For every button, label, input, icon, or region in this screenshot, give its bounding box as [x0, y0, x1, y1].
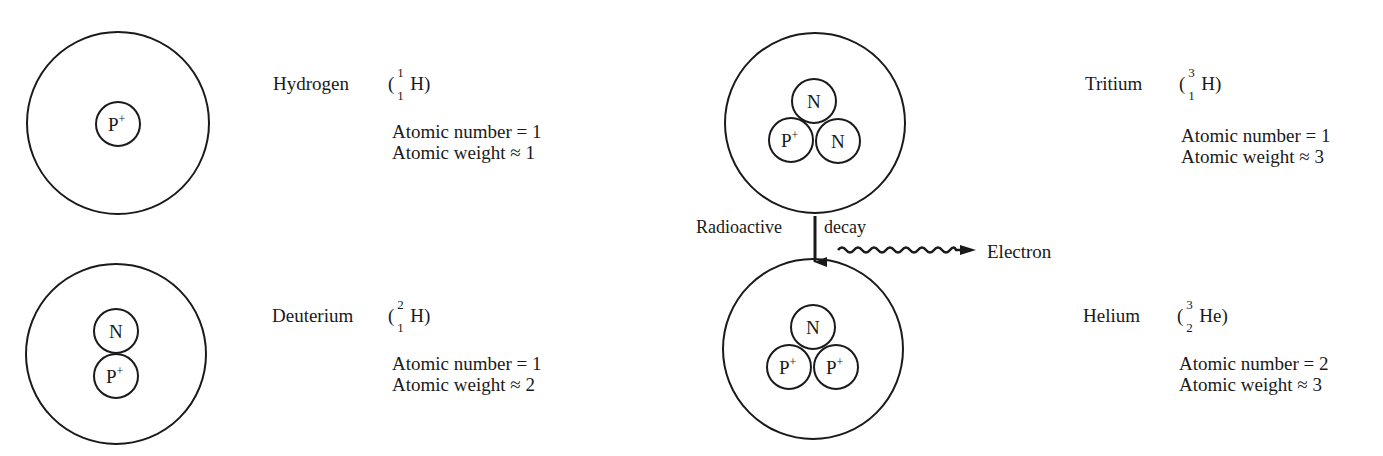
atomic-number-line: Atomic number = 1 — [1181, 125, 1331, 146]
proton: P+ — [96, 102, 140, 146]
paren-close: ) — [424, 306, 430, 325]
tritium-atom: N P+ N — [725, 33, 905, 213]
deuterium-name: Deuterium — [272, 306, 353, 325]
proton: P+ — [769, 118, 813, 162]
atomic-number-subscript: 2 — [1186, 321, 1193, 334]
tritium-name: Tritium — [1085, 74, 1142, 93]
neutron: N — [816, 119, 860, 163]
neutron-label: N — [831, 131, 845, 152]
atomic-weight-line: Atomic weight ≈ 3 — [1179, 374, 1329, 395]
proton-label: P+ — [781, 128, 799, 151]
helium-isotope-notation: (32He) — [1177, 300, 1228, 330]
atomic-weight-line: Atomic weight ≈ 1 — [392, 142, 542, 163]
atom-diagram: P+ N P+ N P+ N — [0, 0, 1383, 456]
hydrogen-atom: P+ — [27, 32, 209, 214]
element-symbol: H — [1201, 74, 1215, 93]
nuclide-numbers: 21 — [397, 300, 408, 330]
hydrogen-properties: Atomic number = 1 Atomic weight ≈ 1 — [392, 121, 542, 163]
mass-number: 3 — [1188, 66, 1195, 79]
nuclide-numbers: 31 — [1188, 68, 1199, 98]
helium-name: Helium — [1083, 306, 1140, 325]
proton-label: P+ — [108, 112, 126, 135]
atomic-number-subscript: 1 — [1188, 89, 1195, 102]
arrowhead-icon — [960, 245, 976, 255]
atomic-number-line: Atomic number = 2 — [1179, 353, 1329, 374]
paren-open: ( — [388, 306, 394, 325]
radioactive-label: Radioactive — [696, 218, 782, 236]
paren-open: ( — [1177, 306, 1183, 325]
atomic-weight-line: Atomic weight ≈ 3 — [1181, 146, 1331, 167]
neutron: N — [791, 305, 835, 349]
atomic-number-line: Atomic number = 1 — [392, 353, 542, 374]
paren-open: ( — [388, 74, 394, 93]
decay-label: decay — [824, 218, 866, 236]
hydrogen-isotope-notation: (11H) — [388, 68, 430, 98]
nuclide-numbers: 11 — [397, 68, 408, 98]
neutron-label: N — [806, 317, 820, 338]
paren-close: ) — [1221, 306, 1227, 325]
element-symbol: H — [410, 306, 424, 325]
deuterium-atom: N P+ — [26, 264, 206, 444]
proton: P+ — [94, 354, 138, 398]
hydrogen-name: Hydrogen — [273, 74, 349, 93]
atomic-weight-line: Atomic weight ≈ 2 — [392, 374, 542, 395]
mass-number: 3 — [1186, 298, 1193, 311]
element-symbol: H — [410, 74, 424, 93]
paren-close: ) — [424, 74, 430, 93]
electron-emission-wave — [838, 245, 976, 255]
neutron-label: N — [109, 321, 123, 342]
atomic-number-subscript: 1 — [397, 89, 404, 102]
paren-open: ( — [1179, 74, 1185, 93]
helium-atom: N P+ P+ — [723, 259, 903, 439]
atomic-number-subscript: 1 — [397, 321, 404, 334]
proton-label: P+ — [106, 364, 124, 387]
tritium-isotope-notation: (31H) — [1179, 68, 1221, 98]
proton: P+ — [814, 345, 858, 389]
tritium-properties: Atomic number = 1 Atomic weight ≈ 3 — [1181, 125, 1331, 167]
neutron-label: N — [807, 91, 821, 112]
proton-label: P+ — [779, 355, 797, 378]
proton-label: P+ — [826, 355, 844, 378]
proton: P+ — [767, 345, 811, 389]
helium-properties: Atomic number = 2 Atomic weight ≈ 3 — [1179, 353, 1329, 395]
electron-label: Electron — [987, 242, 1051, 261]
deuterium-isotope-notation: (21H) — [388, 300, 430, 330]
mass-number: 2 — [397, 298, 404, 311]
deuterium-properties: Atomic number = 1 Atomic weight ≈ 2 — [392, 353, 542, 395]
element-symbol: He — [1199, 306, 1221, 325]
mass-number: 1 — [397, 66, 404, 79]
atomic-number-line: Atomic number = 1 — [392, 121, 542, 142]
paren-close: ) — [1215, 74, 1221, 93]
nuclide-numbers: 32 — [1186, 300, 1197, 330]
neutron: N — [792, 79, 836, 123]
neutron: N — [94, 309, 138, 353]
